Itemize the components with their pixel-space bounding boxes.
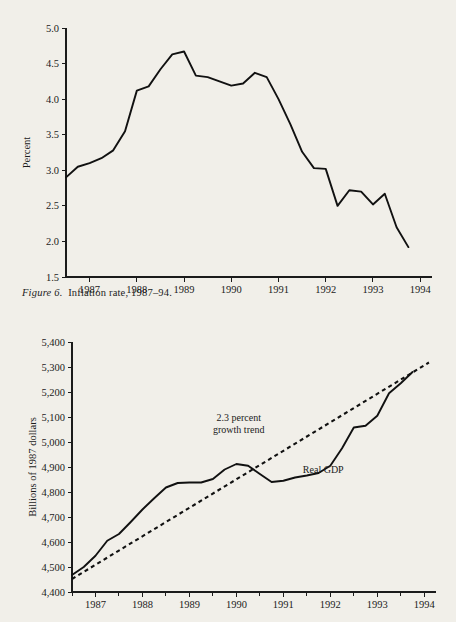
x-tick-label: 1990 [226, 599, 247, 610]
figure-caption-label: Figure 6. [22, 287, 63, 298]
axis-lines [66, 28, 432, 277]
trend-annotation: 2.3 percent [217, 412, 262, 423]
y-tick-label: 4.5 [46, 58, 59, 69]
y-axis-title: Billions of 1987 dollars [27, 417, 38, 516]
y-tick-label: 4,400 [41, 587, 65, 598]
data-series-line [72, 372, 413, 575]
x-tick-label: 1988 [132, 599, 153, 610]
x-tick-label: 1994 [410, 284, 432, 295]
y-tick-label: 4,700 [41, 512, 65, 523]
y-tick-label: 3.5 [46, 129, 59, 140]
y-tick-label: 4,800 [41, 487, 65, 498]
figure-inflation-rate: 1.52.02.53.03.54.04.55.01987198819891990… [0, 0, 456, 300]
x-tick-label: 1989 [179, 599, 200, 610]
trend-series-line [72, 363, 429, 580]
series-annotation: Real GDP [303, 464, 344, 475]
y-tick-label: 1.5 [46, 272, 59, 283]
y-tick-label: 4.0 [46, 94, 59, 105]
x-tick-label: 1994 [414, 599, 436, 610]
x-tick-label: 1987 [85, 599, 106, 610]
trend-annotation-line2: growth trend [213, 424, 264, 435]
y-tick-label: 4,600 [41, 537, 65, 548]
x-tick-label: 1993 [367, 599, 388, 610]
figure-caption: Figure 6. Inflation rate, 1987–94. [22, 287, 172, 298]
x-tick-label: 1989 [174, 284, 195, 295]
x-tick-label: 1991 [273, 599, 294, 610]
page-background: 1.52.02.53.03.54.04.55.01987198819891990… [0, 0, 456, 622]
y-tick-label: 5,100 [41, 412, 65, 423]
figure-real-gdp: 4,4004,5004,6004,7004,8004,9005,0005,100… [0, 320, 456, 622]
x-tick-label: 1993 [362, 284, 383, 295]
x-tick-label: 1992 [315, 284, 336, 295]
data-series-line [66, 51, 408, 247]
y-tick-label: 4,500 [41, 562, 65, 573]
y-tick-label: 5,000 [41, 437, 65, 448]
x-tick-label: 1990 [221, 284, 242, 295]
real-gdp-chart: 4,4004,5004,6004,7004,8004,9005,0005,100… [0, 320, 456, 622]
x-tick-label: 1991 [268, 284, 289, 295]
y-tick-label: 4,900 [41, 462, 65, 473]
y-tick-label: 5,400 [41, 337, 65, 348]
figure-caption-text: Inflation rate, 1987–94. [68, 287, 172, 298]
y-axis-title: Percent [21, 137, 32, 169]
inflation-chart: 1.52.02.53.03.54.04.55.01987198819891990… [0, 0, 456, 300]
x-tick-label: 1992 [320, 599, 341, 610]
y-tick-label: 2.5 [46, 200, 59, 211]
y-tick-label: 3.0 [46, 165, 59, 176]
y-tick-label: 2.0 [46, 236, 59, 247]
axis-lines [72, 342, 436, 592]
y-tick-label: 5.0 [46, 23, 59, 34]
y-tick-label: 5,200 [41, 387, 65, 398]
y-tick-label: 5,300 [41, 362, 65, 373]
